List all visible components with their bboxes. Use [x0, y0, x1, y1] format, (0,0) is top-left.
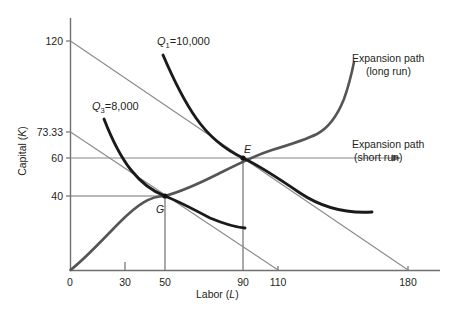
- expansion-path-short-run-label-line1: Expansion path: [352, 138, 424, 151]
- isoquant-q3-label-value: =8,000: [105, 100, 139, 112]
- isoquant-q3-curve: [104, 119, 245, 228]
- y-axis-title: Capital (K): [16, 116, 28, 186]
- point-E-label: E: [244, 143, 251, 155]
- expansion-path-long-run-curve: [71, 62, 355, 270]
- point-G-marker: [162, 193, 167, 198]
- x-axis-title-text: Labor (: [196, 288, 229, 300]
- x-tick-label-50: 50: [151, 276, 179, 288]
- x-axis-title-paren: ): [235, 288, 239, 300]
- isoquant-q1-label-symbol: Q: [157, 35, 166, 47]
- expansion-path-short-run-label-line2: (short run): [352, 151, 424, 164]
- y-tick-label-120: 120: [28, 35, 63, 47]
- isoquant-q1-label-value: =10,000: [170, 35, 210, 47]
- x-axis-title: Labor (L): [196, 288, 239, 300]
- y-axis-title-paren: ): [16, 126, 28, 130]
- point-G-label: G: [156, 203, 164, 215]
- isoquant-q3-label-symbol: Q: [92, 100, 101, 112]
- y-tick-label-40: 40: [28, 190, 63, 202]
- expansion-path-long-run-label: Expansion path (long run): [352, 52, 424, 78]
- x-tick-label-0: 0: [56, 276, 84, 288]
- isoquant-q3-label: Q3=8,000: [92, 100, 139, 115]
- y-axis-title-text: Capital (: [16, 137, 28, 176]
- y-tick-label-60: 60: [28, 152, 63, 164]
- isoquant-q1-label: Q1=10,000: [157, 35, 210, 50]
- expansion-path-long-run-label-line1: Expansion path: [352, 52, 424, 65]
- x-tick-label-110: 110: [264, 276, 292, 288]
- isoquant-expansion-path-figure: 120 73.33 60 40 0 30 50 90 110 180 Capit…: [0, 0, 467, 322]
- expansion-path-short-run-label: Expansion path (short run): [352, 138, 424, 164]
- expansion-path-long-run-label-line2: (long run): [352, 65, 424, 78]
- y-axis-title-symbol: K: [16, 130, 28, 137]
- x-tick-label-90: 90: [229, 276, 257, 288]
- x-tick-label-30: 30: [111, 276, 139, 288]
- x-tick-label-180: 180: [394, 276, 422, 288]
- isoquant-q1-curve: [163, 55, 372, 212]
- point-E-marker: [240, 155, 245, 160]
